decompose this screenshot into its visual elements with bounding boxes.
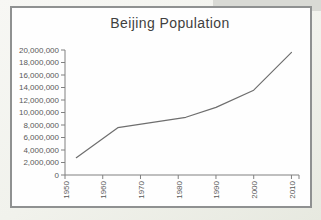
chart-frame: Beijing Population 195019601970198019902… [10, 6, 312, 208]
y-tick-label: 2,000,000 [23, 158, 59, 167]
line-chart-plot: 195019601970198019902000201002,000,0004,… [12, 8, 310, 206]
x-tick-label: 1960 [99, 180, 108, 198]
y-tick-label: 16,000,000 [19, 71, 60, 80]
y-tick-label: 10,000,000 [19, 108, 60, 117]
x-tick-label: 1990 [212, 180, 221, 198]
y-tick-label: 8,000,000 [23, 121, 59, 130]
y-tick-label: 20,000,000 [19, 46, 60, 55]
y-tick-label: 18,000,000 [19, 58, 60, 67]
x-tick-label: 2000 [250, 180, 259, 198]
population-data-line [76, 52, 291, 157]
x-tick-label: 1980 [175, 180, 184, 198]
y-tick-label: 0 [55, 171, 60, 180]
x-tick-label: 1970 [137, 180, 146, 198]
x-tick-label: 1950 [62, 180, 71, 198]
y-tick-label: 4,000,000 [23, 146, 59, 155]
y-tick-label: 6,000,000 [23, 133, 59, 142]
y-tick-label: 12,000,000 [19, 96, 60, 105]
y-tick-label: 14,000,000 [19, 83, 60, 92]
page-background: Beijing Population 195019601970198019902… [0, 0, 321, 220]
x-tick-label: 2010 [288, 180, 297, 198]
